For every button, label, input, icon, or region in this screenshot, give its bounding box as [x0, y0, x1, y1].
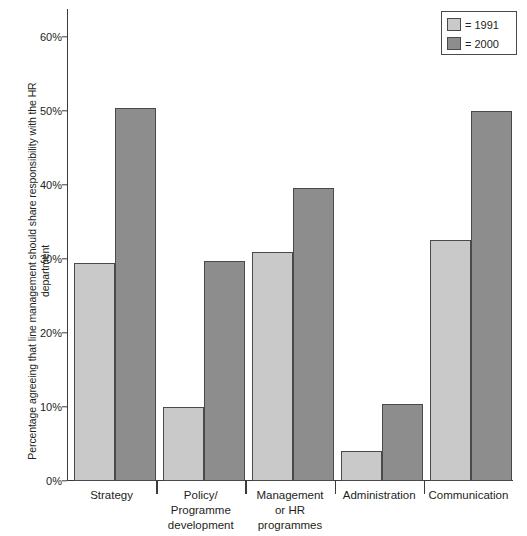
bar-1991-0 — [74, 263, 115, 481]
bar-series-container — [67, 9, 513, 481]
x-category-label: Communication — [424, 488, 513, 503]
x-category-label: Managementor HRprogrammes — [245, 488, 334, 533]
y-tick-label: 40% — [18, 179, 62, 191]
legend-item-2000: = 2000 — [447, 35, 516, 52]
x-category-line: Strategy — [67, 488, 156, 503]
bar-2000-1 — [204, 261, 245, 481]
legend-item-1991: = 1991 — [447, 16, 516, 33]
x-category-line: programmes — [245, 518, 334, 533]
y-tick-label: 50% — [18, 105, 62, 117]
y-tick-label: 0% — [18, 475, 62, 487]
bar-chart: Percentage agreeing that line management… — [0, 0, 527, 536]
bar-1991-3 — [341, 451, 382, 481]
legend-label-2000: = 2000 — [465, 38, 499, 50]
x-category-label: Policy/Programmedevelopment — [156, 488, 245, 533]
y-tick-label: 10% — [18, 401, 62, 413]
y-tick-label: 20% — [18, 327, 62, 339]
x-category-label: Strategy — [67, 488, 156, 503]
x-category-line: Policy/ — [156, 488, 245, 503]
y-tick-label: 60% — [18, 31, 62, 43]
x-category-line: development — [156, 518, 245, 533]
legend-label-1991: = 1991 — [465, 19, 499, 31]
x-category-line: Programme — [156, 503, 245, 518]
bar-2000-0 — [115, 108, 156, 481]
x-category-line: Management — [245, 488, 334, 503]
bar-2000-4 — [471, 111, 512, 481]
legend-swatch-1991-icon — [447, 18, 461, 31]
bar-1991-4 — [430, 240, 471, 481]
bar-1991-1 — [163, 407, 204, 481]
legend-swatch-2000-icon — [447, 37, 461, 50]
bar-2000-3 — [382, 404, 423, 481]
x-category-line: or HR — [245, 503, 334, 518]
bar-2000-2 — [293, 188, 334, 481]
x-category-line: Administration — [335, 488, 424, 503]
x-category-label: Administration — [335, 488, 424, 503]
bar-1991-2 — [252, 252, 293, 481]
legend: = 1991 = 2000 — [441, 11, 517, 55]
y-tick-label: 30% — [18, 253, 62, 265]
x-category-line: Communication — [424, 488, 513, 503]
